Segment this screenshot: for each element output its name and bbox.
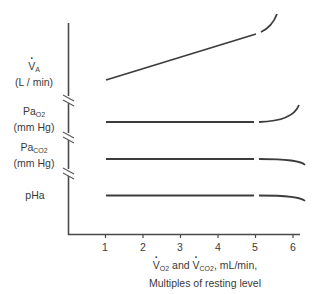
vo2-symbol: V [153,258,160,272]
pao2-subscript: O2 [36,111,45,118]
paco2-symbol: Pa [20,141,33,153]
vco2-subscript: CO2 [200,265,214,272]
va-symbol: V [28,60,35,73]
x-tick-2: 2 [136,241,150,253]
x-tick-6: 6 [286,241,300,253]
vco2-symbol: V [193,258,200,272]
va-subscript: A [35,66,40,73]
y-label-pao2: PaO2 (mm Hg) [12,105,56,134]
y-label-paco2: PaCO2 (mm Hg) [12,141,56,170]
x-tick-1: 1 [98,241,112,253]
paco2-unit: (mm Hg) [12,157,56,170]
x-tick-3: 3 [173,241,187,253]
vo2-subscript: O2 [160,265,169,272]
x-tick-5: 5 [248,241,262,253]
x-tick-4: 4 [211,241,225,253]
pha-symbol: pHa [14,189,56,202]
series-pao2 [106,105,299,122]
and-text: and [169,259,192,271]
series-va [106,14,277,80]
series-paco2 [106,159,305,165]
x-axis-title-line1: VO2 and VCO2, mL/min, [100,258,310,276]
pao2-symbol: Pa [23,105,36,117]
pao2-unit: (mm Hg) [12,121,56,134]
x-axis-title-line2: Multiples of resting level [100,276,310,290]
series-pha [106,196,305,202]
va-unit: (L / min) [14,76,54,89]
y-label-pha: pHa [14,189,56,202]
paco2-subscript: CO2 [33,147,47,154]
y-label-va: VA (L / min) [14,60,54,89]
x-axis-title: VO2 and VCO2, mL/min, Multiples of resti… [100,258,310,290]
units-text: , mL/min, [214,259,257,271]
